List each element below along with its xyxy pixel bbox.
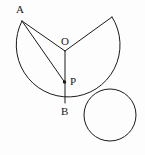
tangent-circle [84, 89, 136, 141]
major-arc [16, 17, 120, 97]
point-P-dot [63, 80, 66, 83]
radius-O-E-segment [65, 17, 112, 51]
chord-A-P-segment [22, 21, 65, 82]
radius-O-A-segment [22, 21, 65, 51]
vertex-label-O: O [61, 36, 69, 47]
vertex-label-A: A [16, 4, 24, 15]
geometry-figure: A O P B [0, 0, 145, 155]
vertex-label-P: P [70, 76, 76, 87]
vertex-label-B: B [61, 106, 68, 117]
